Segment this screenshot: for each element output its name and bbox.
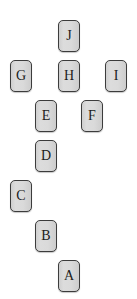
- node-label: I: [114, 69, 119, 83]
- node-g[interactable]: G: [10, 60, 32, 92]
- node-label: F: [88, 109, 96, 123]
- node-d[interactable]: D: [35, 140, 57, 172]
- node-label: A: [64, 269, 74, 283]
- node-label: J: [66, 29, 71, 43]
- node-e[interactable]: E: [35, 100, 57, 132]
- node-label: G: [16, 69, 26, 83]
- node-c[interactable]: C: [10, 180, 32, 212]
- node-label: C: [16, 189, 25, 203]
- node-b[interactable]: B: [35, 220, 57, 252]
- node-label: D: [41, 149, 51, 163]
- node-h[interactable]: H: [58, 60, 80, 92]
- node-label: B: [41, 229, 50, 243]
- node-j[interactable]: J: [58, 20, 80, 52]
- diagram-canvas: JGHIEFDCBA: [0, 0, 137, 299]
- node-i[interactable]: I: [105, 60, 127, 92]
- node-f[interactable]: F: [81, 100, 103, 132]
- node-a[interactable]: A: [58, 260, 80, 292]
- node-label: H: [64, 69, 74, 83]
- node-label: E: [42, 109, 51, 123]
